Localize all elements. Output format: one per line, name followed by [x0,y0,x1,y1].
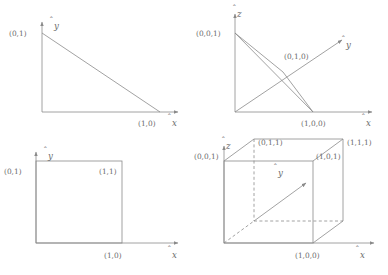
svg-text:y: y [277,168,283,178]
simplex-edge-z-x [235,33,313,112]
vertex-label-1-0-0: (1,0,0) [295,251,320,260]
figure-unit-simplex-and-cube: y ̂ x ̂ (0,1) (1,0) z [0,0,388,275]
svg-text:̂: ̂ [355,245,359,247]
svg-text:y: y [47,151,53,161]
svg-text:x: x [172,118,177,128]
vertex-label-1-0-1: (1,0,1) [316,152,341,161]
svg-text:x: x [360,250,365,260]
cube-front-face [224,161,313,243]
svg-text:̂: ̂ [361,113,365,115]
y-axis-line [254,183,306,221]
y-axis-label: y ̂ [49,16,59,31]
panel-3d-unit-cube: z ̂ y ̂ x ̂ (0,0,1) (0,1,1) (1,1,1) (1,0… [194,138,388,275]
x-axis-label: x ̂ [167,245,177,260]
simplex-edge-y-x [283,72,313,112]
vertex-label-1-0: (1,0) [104,251,122,260]
svg-text:̂: ̂ [43,146,47,148]
panel-3d-simplex: z ̂ y ̂ x ̂ (0,0,1) (0,1,0) (1,0,0) [194,0,388,138]
vertex-label-0-1-1: (0,1,1) [258,138,283,147]
svg-text:y: y [53,21,59,31]
svg-text:̂: ̂ [167,245,171,247]
x-axis-label: x ̂ [361,113,371,128]
vertex-label-1-1-1: (1,1,1) [347,138,372,147]
y-axis-line [235,40,342,112]
z-axis-label: z ̂ [233,4,242,19]
svg-text:x: x [172,250,177,260]
x-axis-label: x ̂ [355,245,365,260]
svg-text:̂: ̂ [273,163,277,165]
svg-text:z: z [225,141,231,151]
vertex-label-1-0-0: (1,0,0) [301,119,326,128]
z-axis-label: z ̂ [221,136,231,151]
y-axis-label: y ̂ [273,163,283,178]
svg-text:̂: ̂ [167,113,171,115]
svg-text:x: x [366,118,371,128]
vertex-label-0-0-1: (0,0,1) [194,152,219,161]
vertex-label-0-1: (0,1) [4,167,22,176]
simplex-edge-z-y [235,33,283,72]
svg-text:̂: ̂ [341,35,345,37]
simplex-hypotenuse [42,33,160,112]
vertex-label-0-1-0: (0,1,0) [284,52,309,61]
panel-2d-unit-cube: y ̂ x ̂ (0,1) (1,1) (1,0) [0,138,194,275]
vertex-label-1-1: (1,1) [99,167,117,176]
cube-edge-bottomleft-hidden [224,221,254,243]
svg-text:z: z [236,9,242,19]
y-axis-label: y ̂ [341,35,351,50]
svg-text:̂: ̂ [233,4,237,6]
vertex-label-0-0-1: (0,0,1) [196,29,221,38]
svg-text:y: y [345,40,351,50]
panel-2d-simplex: y ̂ x ̂ (0,1) (1,0) [0,0,194,138]
cube-edge-bottomright [313,221,343,243]
vertex-label-0-1: (0,1) [9,29,27,38]
svg-text:̂: ̂ [49,16,53,18]
vertex-label-1-0: (1,0) [138,119,156,128]
x-axis-label: x ̂ [167,113,177,128]
y-axis-label: y ̂ [43,146,53,161]
